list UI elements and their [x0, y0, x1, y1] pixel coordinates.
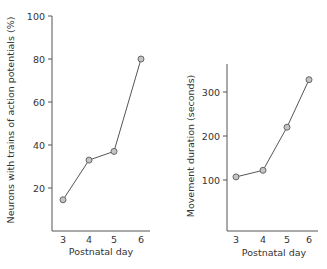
y-tick-label: 20	[33, 183, 45, 194]
data-point	[86, 157, 92, 163]
x-axis-title: Postnatal day	[69, 246, 134, 257]
data-point	[60, 197, 66, 203]
data-point	[306, 77, 312, 83]
x-tick-label: 4	[260, 234, 266, 245]
data-point	[111, 148, 117, 154]
x-tick-label: 5	[284, 234, 290, 245]
x-tick-label: 6	[138, 234, 144, 245]
movement-duration-chart: 1002003003456Postnatal dayMovement durat…	[185, 64, 318, 258]
series-line	[236, 80, 309, 177]
data-point	[284, 124, 290, 130]
x-tick-label: 3	[60, 234, 66, 245]
y-tick-label: 300	[202, 87, 220, 98]
x-tick-label: 6	[306, 234, 312, 245]
y-tick-label: 200	[202, 131, 220, 142]
y-tick-label: 40	[33, 140, 45, 151]
y-tick-label: 60	[33, 97, 45, 108]
y-axis-title: Movement duration (seconds)	[185, 75, 196, 218]
data-point	[138, 56, 144, 62]
x-tick-label: 4	[86, 234, 92, 245]
x-axis-title: Postnatal day	[242, 247, 307, 258]
data-point	[233, 174, 239, 180]
series-line	[63, 59, 141, 200]
neurons-chart: 204060801003456Postnatal dayNeurons with…	[5, 11, 150, 258]
y-tick-label: 80	[33, 54, 45, 65]
data-point	[260, 167, 266, 173]
y-axis-title: Neurons with trains of action potentials…	[5, 17, 16, 224]
x-tick-label: 5	[111, 234, 117, 245]
y-tick-label: 100	[202, 175, 220, 186]
x-tick-label: 3	[233, 234, 239, 245]
figure: 204060801003456Postnatal dayNeurons with…	[0, 0, 327, 269]
y-tick-label: 100	[27, 11, 45, 22]
